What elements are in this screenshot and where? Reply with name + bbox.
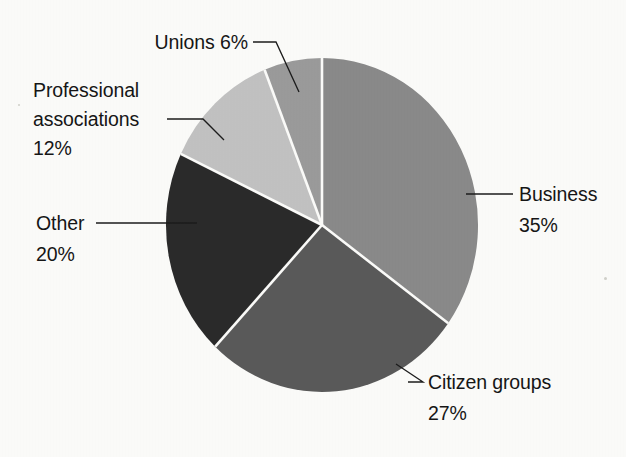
label-unions: Unions 6% bbox=[155, 31, 248, 53]
label-other-value: 20% bbox=[36, 243, 75, 265]
label-professional-associations-value: 12% bbox=[33, 137, 72, 159]
leader-line-citizen-groups bbox=[396, 364, 423, 382]
scan-speck bbox=[604, 277, 607, 280]
label-professional-associations-line1: Professional bbox=[33, 79, 139, 101]
label-professional-associations-line2: associations bbox=[33, 108, 139, 130]
label-business: Business bbox=[519, 183, 598, 205]
pie-chart-svg: Unions 6% Professional associations 12% … bbox=[0, 0, 626, 457]
label-citizen-groups: Citizen groups bbox=[428, 371, 552, 393]
label-citizen-groups-value: 27% bbox=[428, 402, 467, 424]
label-business-value: 35% bbox=[519, 214, 558, 236]
pie-chart-figure: Unions 6% Professional associations 12% … bbox=[0, 0, 626, 457]
label-other: Other bbox=[36, 212, 85, 234]
scan-speck bbox=[18, 104, 20, 106]
